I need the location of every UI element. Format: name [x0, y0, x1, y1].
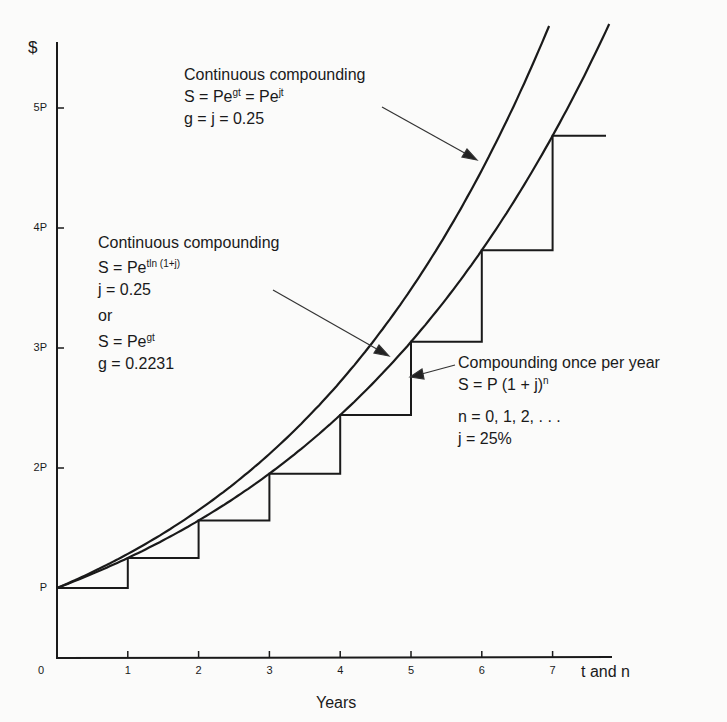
y-tick-label: 3P	[34, 341, 47, 353]
x-axis-title: Years	[316, 694, 356, 712]
x-tick-label: 4	[337, 664, 343, 676]
arrow-2-line	[273, 290, 382, 352]
annotation-param: g = 0.2231	[98, 353, 279, 375]
annotation-formula: S = Petln (1+j)	[98, 257, 279, 279]
y-tick-label: 5P	[34, 101, 47, 113]
formula-part: S = P (1 + j)	[458, 376, 543, 393]
annotation-or: or	[98, 305, 279, 327]
x-tick-label: 3	[266, 664, 272, 676]
x-tick-label: 6	[479, 664, 485, 676]
y-tick-label: 2P	[34, 461, 47, 473]
annotation-rate: j = 25%	[458, 428, 660, 450]
annotation-continuous-g02231: Continuous compounding S = Petln (1+j) j…	[98, 232, 279, 375]
annotation-formula: S = P (1 + j)n	[458, 374, 660, 396]
y-ticks	[57, 108, 64, 468]
annotation-title: Continuous compounding	[184, 64, 365, 86]
formula-exponent: gt	[146, 332, 154, 343]
annotation-title: Compounding once per year	[458, 352, 660, 374]
y-tick-label: P	[40, 581, 47, 593]
formula-exponent: n	[543, 375, 549, 386]
x-tick-label: 7	[550, 664, 556, 676]
x-axis-end-label: t and n	[581, 663, 630, 681]
annotation-continuous-g025: Continuous compounding S = Pegt = Pejt g…	[184, 64, 365, 130]
formula-part: S = Pe	[98, 259, 146, 276]
formula-exponent: jt	[279, 87, 284, 98]
arrow-1-head	[462, 149, 477, 160]
y-axis-symbol: $	[28, 38, 37, 58]
annotation-param: j = 0.25	[98, 279, 279, 301]
x-tick-label: 2	[196, 664, 202, 676]
arrow-3-head	[410, 369, 424, 379]
formula-part: S = Pe	[184, 88, 232, 105]
formula-part: = Pe	[241, 88, 279, 105]
x-axis	[56, 657, 612, 658]
formula-exponent: gt	[232, 87, 240, 98]
origin-label: 0	[38, 664, 44, 676]
x-tick-label: 1	[125, 664, 131, 676]
arrow-1-line	[382, 107, 470, 156]
annotation-title: Continuous compounding	[98, 232, 279, 254]
formula-exponent: tln (1+j)	[146, 258, 180, 269]
annotation-formula-alt: S = Pegt	[98, 331, 279, 353]
annotation-annual-compounding: Compounding once per year S = P (1 + j)n…	[458, 352, 660, 450]
formula-part: S = Pe	[98, 333, 146, 350]
x-tick-label: 5	[408, 664, 414, 676]
arrow-2-head	[374, 345, 389, 356]
annotation-param: g = j = 0.25	[184, 108, 365, 130]
y-tick-label: 4P	[34, 221, 47, 233]
annotation-n-values: n = 0, 1, 2, . . .	[458, 406, 660, 428]
arrow-3-line	[418, 365, 455, 375]
annotation-formula: S = Pegt = Pejt	[184, 86, 365, 108]
